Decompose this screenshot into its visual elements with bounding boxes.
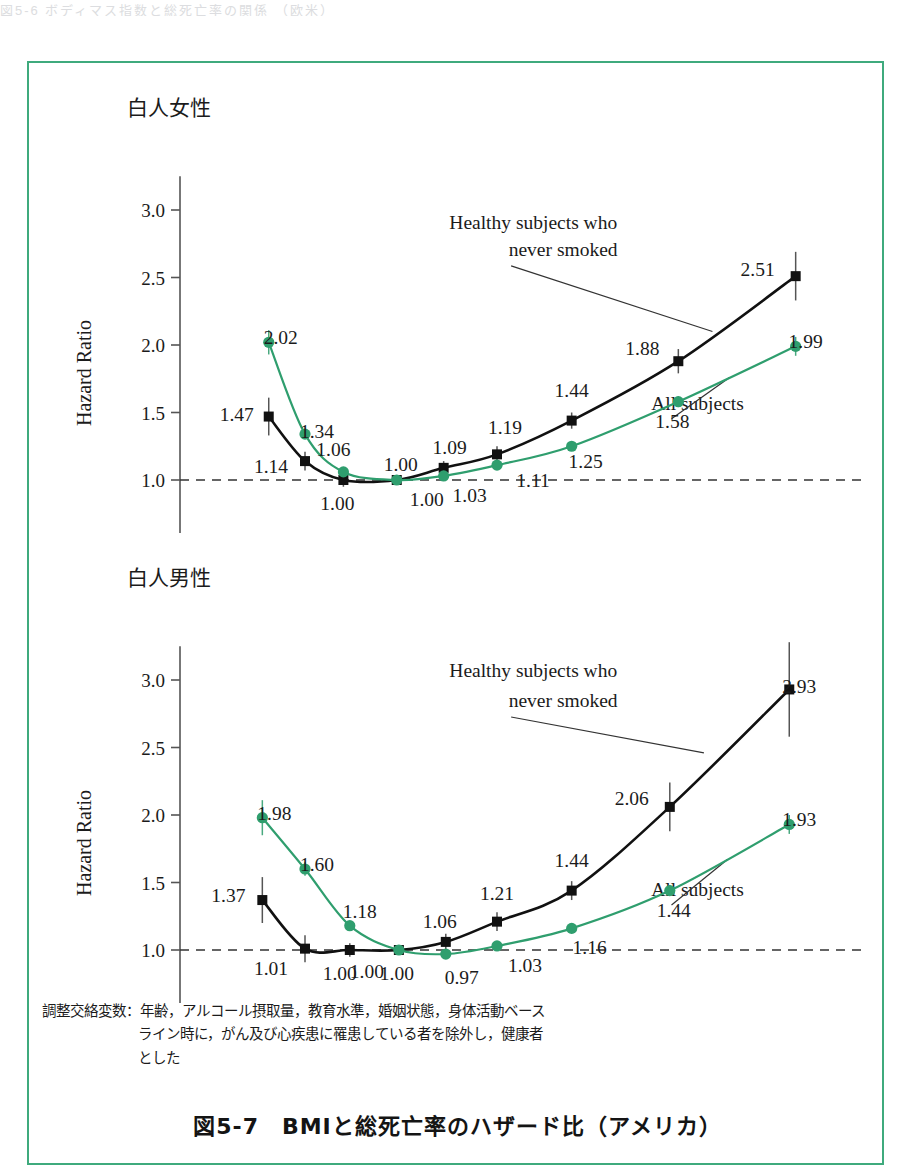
data-point-marker [491, 460, 502, 471]
panel-title: 白人女性 [127, 96, 211, 120]
chart-svg-white-women: 白人女性0.51.01.52.02.53.0Hazard Ratio0.015.… [29, 63, 886, 533]
data-point-label: 1.01 [254, 958, 288, 979]
data-point-label: 1.14 [254, 456, 288, 477]
data-point-label: 2.51 [741, 259, 775, 280]
data-point-marker [257, 895, 267, 905]
data-point-marker [393, 944, 404, 955]
data-point-marker [338, 466, 349, 477]
data-point-label: 1.44 [657, 900, 691, 921]
data-point-marker [441, 937, 451, 947]
legend-label-healthy-never-smoked: Healthy subjects who [449, 212, 617, 233]
legend-label-healthy-never-smoked: Healthy subjects who [449, 660, 617, 681]
data-point-marker [491, 940, 502, 951]
chart-white-women: 白人女性0.51.01.52.02.53.0Hazard Ratio0.015.… [29, 63, 886, 533]
data-point-label: 1.00 [380, 963, 414, 984]
data-point-label: 1.11 [516, 470, 549, 491]
chart-svg-white-men: 白人男性0.51.01.52.02.53.0Hazard Ratio0.015.… [29, 533, 886, 1003]
data-point-label: 1.25 [569, 451, 603, 472]
y-tick-label: 3.0 [141, 670, 165, 691]
data-point-marker [492, 917, 502, 927]
page-top-text-fragment: 図5-6 ボディマス指数と総死亡率の関係 （欧米） [0, 0, 915, 16]
data-point-marker [492, 449, 502, 459]
series-line-healthy-never-smoked [262, 689, 789, 952]
data-point-label: 1.99 [789, 331, 823, 352]
y-tick-label: 1.5 [141, 873, 165, 894]
data-point-label: 1.06 [316, 439, 350, 460]
panel-title: 白人男性 [127, 566, 211, 590]
y-tick-label: 3.0 [141, 200, 165, 221]
data-point-marker [438, 470, 449, 481]
data-point-label: 1.44 [555, 850, 589, 871]
data-point-label: 1.98 [257, 803, 291, 824]
data-point-marker [566, 923, 577, 934]
y-tick-label: 1.5 [141, 403, 165, 424]
data-point-marker [567, 416, 577, 426]
data-point-label: 0.97 [445, 967, 479, 988]
data-point-marker [440, 948, 451, 959]
data-point-label: 1.58 [655, 411, 689, 432]
figure-title: 図5-7 BMIと総死亡率のハザード比（アメリカ） [0, 1108, 915, 1140]
data-point-marker [664, 885, 675, 896]
caption-line-2: ライン時に，がん及び心疾患に罹患している者を除外し，健康者 [42, 1023, 832, 1046]
data-point-label: 1.00 [350, 961, 384, 982]
data-point-label: 1.47 [220, 404, 254, 425]
data-point-marker [567, 886, 577, 896]
data-point-label: 1.03 [508, 955, 542, 976]
y-tick-label: 1.0 [141, 940, 165, 961]
data-point-label: 1.09 [433, 437, 467, 458]
data-point-label: 1.00 [384, 454, 418, 475]
caption-line-1: 調整交絡変数：年齢，アルコール摂取量，教育水準，婚姻状態，身体活動ベース [42, 1000, 832, 1023]
data-point-label: 1.00 [410, 489, 444, 510]
data-point-marker [264, 412, 274, 422]
data-point-marker [345, 945, 355, 955]
data-point-label: 2.93 [782, 676, 816, 697]
data-point-marker [344, 920, 355, 931]
data-point-label: 1.88 [625, 338, 659, 359]
data-point-label: 1.16 [573, 937, 607, 958]
data-point-marker [300, 456, 310, 466]
data-point-marker [673, 356, 683, 366]
data-point-label: 1.03 [453, 485, 487, 506]
data-point-label: 1.18 [343, 901, 377, 922]
data-point-label: 1.60 [300, 854, 334, 875]
leader-line [511, 266, 712, 332]
data-point-label: 2.02 [264, 327, 298, 348]
y-axis-label: Hazard Ratio [73, 790, 95, 896]
y-tick-label: 1.0 [141, 470, 165, 491]
data-point-label: 1.21 [480, 883, 514, 904]
figure-caption: 調整交絡変数：年齢，アルコール摂取量，教育水準，婚姻状態，身体活動ベース ライン… [42, 1000, 832, 1070]
y-axis-label: Hazard Ratio [73, 320, 95, 426]
data-point-marker [300, 944, 310, 954]
data-point-label: 2.06 [615, 788, 649, 809]
data-point-marker [566, 441, 577, 452]
data-point-label: 1.19 [488, 417, 522, 438]
y-tick-label: 2.5 [141, 738, 165, 759]
data-point-label: 1.93 [782, 809, 816, 830]
data-point-marker [791, 271, 801, 281]
chart-white-men: 白人男性0.51.01.52.02.53.0Hazard Ratio0.015.… [29, 533, 886, 1003]
data-point-label: 1.44 [555, 380, 589, 401]
leader-line [511, 717, 704, 753]
data-point-label: 1.37 [211, 885, 245, 906]
y-tick-label: 2.5 [141, 268, 165, 289]
data-point-marker [665, 802, 675, 812]
data-point-label: 1.00 [320, 493, 354, 514]
legend-label-healthy-never-smoked: never smoked [509, 239, 618, 260]
caption-line-3: とした [42, 1047, 832, 1070]
data-point-label: 1.06 [423, 911, 457, 932]
data-point-marker [673, 396, 684, 407]
y-tick-label: 2.0 [141, 335, 165, 356]
data-point-marker [391, 474, 402, 485]
y-tick-label: 2.0 [141, 805, 165, 826]
legend-label-healthy-never-smoked: never smoked [509, 690, 618, 711]
